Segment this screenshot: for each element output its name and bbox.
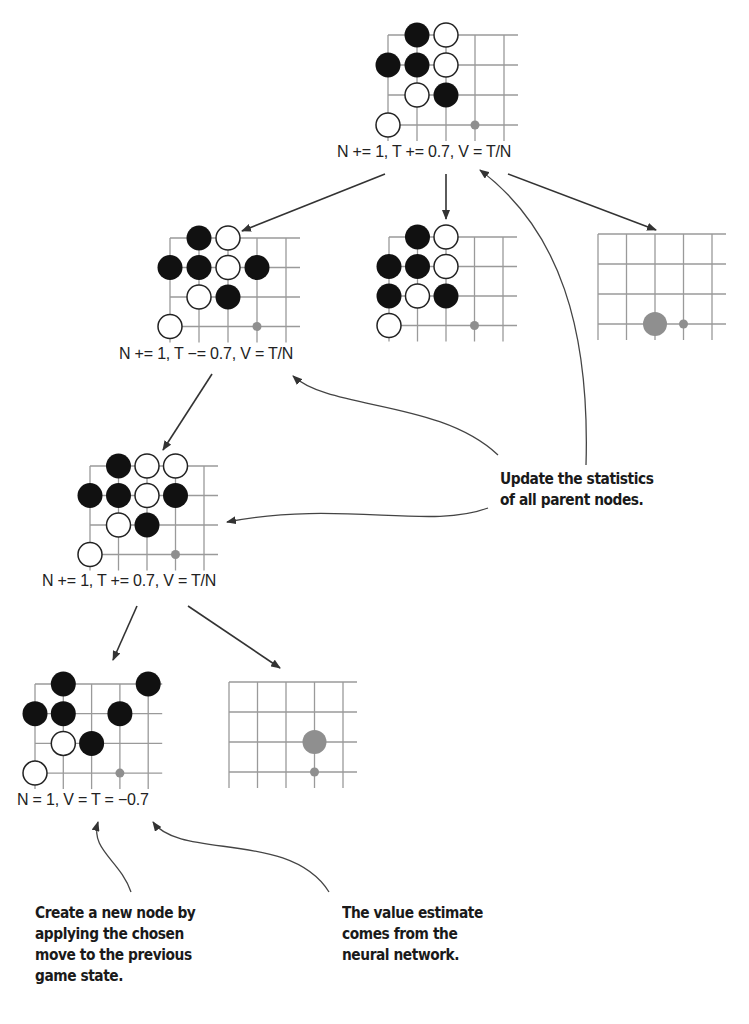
- white-stone: [135, 484, 159, 508]
- white-stone: [158, 315, 182, 339]
- move-marker-dot: [115, 769, 124, 778]
- black-stone: [106, 454, 131, 479]
- white-stone: [434, 255, 458, 279]
- white-stone: [51, 731, 75, 755]
- black-stone: [187, 255, 212, 280]
- callout-update-parents: Update the statistics of all parent node…: [500, 468, 654, 510]
- edge-left-to-grandchild: [163, 374, 212, 450]
- black-stone: [23, 701, 48, 726]
- arrow-value-to-leaf: [153, 822, 329, 892]
- new-leaf-stats-label: N = 1, V = T = −0.7: [17, 791, 149, 809]
- move-marker-dot: [679, 320, 688, 329]
- black-stone: [78, 483, 103, 508]
- black-stone: [245, 255, 270, 280]
- board-grandchild: [78, 454, 219, 571]
- white-stone: [376, 113, 400, 137]
- root-stats-label: N += 1, T += 0.7, V = T/N: [337, 143, 511, 161]
- black-stone: [405, 53, 430, 78]
- black-stone: [136, 672, 161, 697]
- black-stone: [377, 254, 402, 279]
- black-stone: [51, 672, 76, 697]
- arrow-update-to-grandchild: [227, 508, 488, 522]
- edge-grandchild-to-leaf: [113, 606, 137, 660]
- move-marker-dot: [471, 121, 480, 130]
- board-child-right: [598, 234, 726, 340]
- black-stone: [216, 285, 241, 310]
- edge-grandchild-to-sibling: [188, 606, 280, 668]
- black-stone: [405, 225, 430, 250]
- white-stone: [405, 83, 429, 107]
- black-stone: [405, 23, 430, 48]
- board-new-leaf: [23, 672, 163, 790]
- move-marker-dot: [171, 550, 180, 559]
- white-stone: [377, 314, 401, 338]
- black-stone: [163, 483, 188, 508]
- callout-value-estimate: The value estimate comes from the neural…: [342, 902, 483, 965]
- left-child-stats-label: N += 1, T −= 0.7, V = T/N: [119, 345, 293, 363]
- white-stone: [107, 513, 131, 537]
- white-stone: [216, 226, 240, 250]
- black-stone: [158, 255, 183, 280]
- black-stone: [376, 53, 401, 78]
- callout-create-node: Create a new node by applying the chosen…: [35, 902, 195, 986]
- white-stone: [187, 285, 211, 309]
- black-stone: [51, 701, 76, 726]
- grandchild-stats-label: N += 1, T += 0.7, V = T/N: [42, 572, 216, 590]
- black-stone: [107, 701, 132, 726]
- black-stone: [377, 284, 402, 309]
- white-stone: [78, 543, 102, 567]
- black-stone: [79, 731, 104, 756]
- board-child-left: [158, 226, 301, 343]
- white-stone: [434, 225, 458, 249]
- go-boards: [23, 23, 727, 790]
- black-stone: [434, 284, 459, 309]
- board-root: [376, 23, 519, 142]
- board-leaf-sibling: [229, 682, 357, 788]
- white-stone: [434, 53, 458, 77]
- move-marker-dot: [253, 322, 262, 331]
- white-stone: [23, 761, 47, 785]
- arrow-update-to-root: [480, 170, 586, 465]
- edge-root-to-left: [242, 174, 385, 231]
- move-marker-dot: [470, 321, 479, 330]
- black-stone: [135, 513, 160, 538]
- board-child-middle: [377, 225, 518, 342]
- black-stone: [106, 483, 131, 508]
- candidate-stone: [303, 730, 327, 754]
- white-stone: [406, 284, 430, 308]
- move-marker-dot: [310, 768, 319, 777]
- white-stone: [434, 23, 458, 47]
- white-stone: [164, 454, 188, 478]
- arrow-create-to-leaf: [97, 822, 131, 892]
- candidate-stone: [643, 312, 667, 336]
- black-stone: [405, 254, 430, 279]
- white-stone: [216, 256, 240, 280]
- black-stone: [187, 226, 212, 251]
- black-stone: [434, 83, 459, 108]
- white-stone: [135, 454, 159, 478]
- arrow-update-to-left-child: [293, 376, 498, 455]
